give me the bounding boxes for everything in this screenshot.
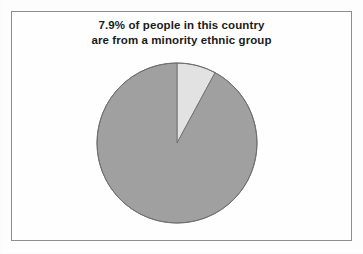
pie-slice-2 [97,63,257,223]
chart-frame: 7.9% of people in this country are from … [11,11,352,241]
chart-title: 7.9% of people in this country are from … [12,18,351,48]
pie-slice-group [97,63,257,223]
pie-chart-svg [91,57,263,229]
chart-title-line-1: 7.9% of people in this country [12,18,351,33]
pie-chart [91,57,263,229]
screenshot-root: 7.9% of people in this country are from … [0,0,363,254]
chart-title-line-2: are from a minority ethnic group [12,33,351,48]
